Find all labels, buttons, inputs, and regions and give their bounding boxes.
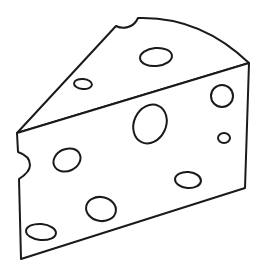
- cheese-wedge-illustration: [0, 0, 261, 277]
